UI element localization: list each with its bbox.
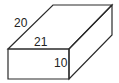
right-face — [69, 5, 112, 79]
depth-label: 20 — [14, 16, 28, 30]
length-label: 21 — [34, 35, 48, 49]
box-diagram: 20 21 10 — [0, 0, 119, 83]
height-label: 10 — [54, 56, 68, 70]
